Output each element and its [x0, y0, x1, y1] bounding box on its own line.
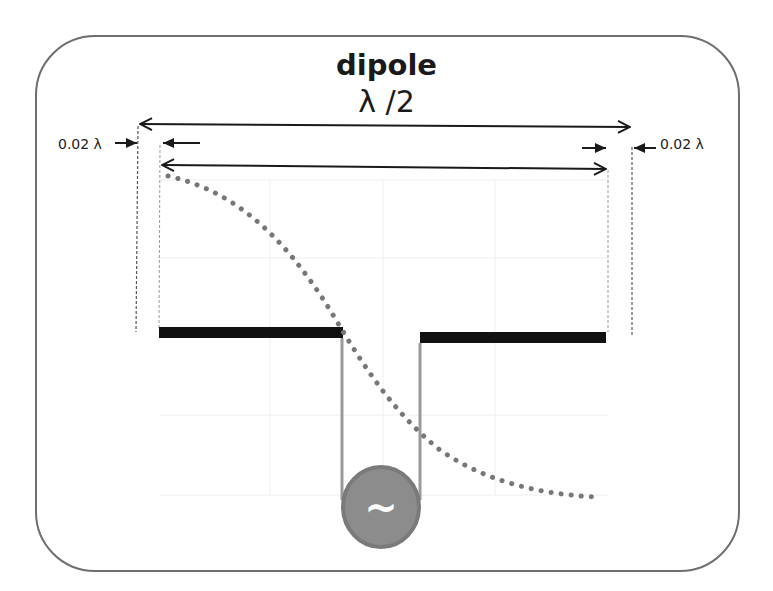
inner-dimension-arrow	[162, 165, 606, 169]
left-dipole-arm	[159, 327, 343, 338]
right-dipole-arm	[420, 332, 606, 343]
dipole-diagram: ~	[0, 0, 773, 591]
dashed-guides	[136, 126, 632, 336]
outer-dimension-arrow	[140, 124, 630, 127]
source-symbol: ~	[364, 484, 398, 530]
